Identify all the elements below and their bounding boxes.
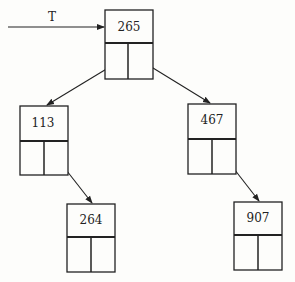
node-value: 113	[32, 116, 55, 130]
tree-node: 907	[234, 202, 282, 270]
node-value: 907	[247, 211, 270, 225]
tree-node: 265	[105, 10, 153, 79]
pointer-label: T	[48, 10, 56, 24]
root-pointer: T	[8, 10, 104, 27]
tree-diagram: T 265 113 467 264 907	[0, 0, 295, 282]
node-value: 264	[80, 213, 103, 227]
tree-node: 264	[67, 204, 115, 272]
node-value: 467	[201, 113, 224, 127]
tree-node: 113	[20, 106, 68, 175]
node-value: 265	[118, 20, 141, 34]
tree-node: 467	[188, 104, 236, 174]
